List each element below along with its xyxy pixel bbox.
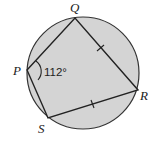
label-q: Q [70,0,80,15]
label-s: S [38,121,45,136]
label-p: P [12,63,21,78]
cyclic-quadrilateral-diagram: Q P R S 112° [0,0,162,142]
angle-label-p: 112° [44,66,67,78]
label-r: R [139,88,148,103]
